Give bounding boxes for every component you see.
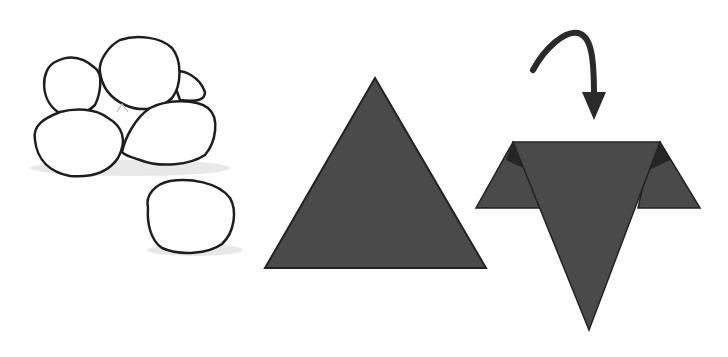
front-flap xyxy=(513,142,660,330)
fold-arrow-icon xyxy=(533,33,606,120)
folded-sheet xyxy=(476,142,700,330)
rice-ball-right xyxy=(122,101,215,164)
illustration xyxy=(0,0,728,357)
rice-ball-single xyxy=(147,180,234,253)
rice-balls-group xyxy=(30,37,243,256)
rice-ball-front-left xyxy=(35,110,123,177)
triangle-sheet xyxy=(265,78,486,268)
rice-ball-top xyxy=(100,37,180,109)
rice-ball-back-left xyxy=(44,58,100,115)
